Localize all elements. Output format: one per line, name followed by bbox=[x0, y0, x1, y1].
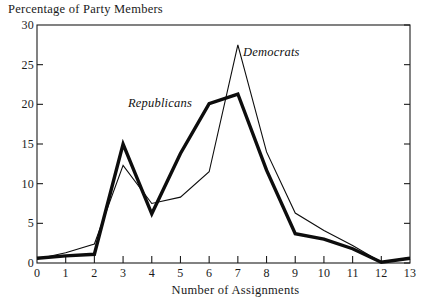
series-annotation: Democrats bbox=[243, 45, 300, 60]
x-axis-label-text: Number of Assignments bbox=[138, 283, 300, 297]
x-tick-label: 0 bbox=[25, 266, 49, 281]
x-tick-label: 9 bbox=[283, 266, 307, 281]
axis-frame bbox=[37, 25, 410, 263]
x-tick-label: 12 bbox=[369, 266, 393, 281]
series-line-republicans bbox=[37, 94, 410, 262]
x-tick-label: 3 bbox=[111, 266, 135, 281]
x-tick-label: 4 bbox=[140, 266, 164, 281]
x-tick-label: 8 bbox=[255, 266, 279, 281]
chart-container: Percentage of Party Members 051015202530… bbox=[0, 0, 437, 308]
x-tick-label: 10 bbox=[312, 266, 336, 281]
x-tick-label: 7 bbox=[226, 266, 250, 281]
plot-area bbox=[0, 0, 437, 308]
x-tick-label: 5 bbox=[168, 266, 192, 281]
series-annotation: Republicans bbox=[128, 96, 192, 111]
x-tick-label: 13 bbox=[398, 266, 422, 281]
x-tick-label: 11 bbox=[341, 266, 365, 281]
x-axis-label: Number of Assignments bbox=[0, 283, 437, 298]
x-tick-label: 2 bbox=[82, 266, 106, 281]
series-line-democrats bbox=[37, 45, 410, 262]
x-tick-label: 1 bbox=[54, 266, 78, 281]
x-tick-label: 6 bbox=[197, 266, 221, 281]
